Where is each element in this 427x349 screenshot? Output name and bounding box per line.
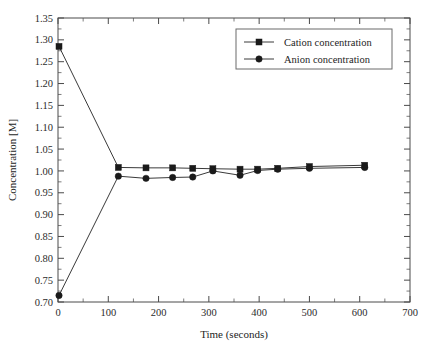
y-tick-label: 1.30 [35, 34, 53, 45]
series-circle [56, 164, 368, 298]
y-tick-label: 1.00 [35, 166, 53, 177]
y-tick-label: 1.15 [35, 100, 53, 111]
y-tick-label: 0.85 [35, 231, 53, 242]
x-tick-label: 600 [352, 307, 368, 318]
x-tick-labels: 0100200300400500600700 [55, 307, 418, 318]
data-point-marker [190, 165, 196, 171]
legend-marker-circle [256, 56, 262, 62]
y-tick-label: 1.25 [35, 56, 53, 67]
data-point-marker [169, 174, 175, 180]
x-tick-label: 500 [302, 307, 318, 318]
y-tick-label: 0.90 [35, 209, 53, 220]
data-series [56, 43, 368, 298]
data-point-marker [143, 165, 149, 171]
x-tick-label: 0 [55, 307, 60, 318]
chart-page: 0100200300400500600700 0.700.750.800.850… [0, 0, 427, 349]
data-point-marker [115, 173, 121, 179]
y-tick-label: 0.70 [35, 297, 53, 308]
x-tick-label: 200 [151, 307, 167, 318]
data-point-marker [237, 172, 243, 178]
data-point-marker [237, 166, 243, 172]
data-point-marker [190, 174, 196, 180]
data-point-marker [275, 166, 281, 172]
x-tick-label: 700 [402, 307, 418, 318]
y-axis-title: Concentration [M] [6, 119, 18, 201]
legend-label: Cation concentration [284, 37, 373, 48]
y-tick-label: 1.10 [35, 122, 53, 133]
y-tick-label: 1.05 [35, 144, 53, 155]
y-tick-label: 1.20 [35, 78, 53, 89]
chart-legend: Cation concentrationAnion concentration [236, 29, 392, 69]
data-point-marker [56, 43, 62, 49]
y-tick-label: 0.95 [35, 187, 53, 198]
x-tick-label: 300 [201, 307, 217, 318]
series-line [59, 167, 365, 295]
legend-label: Anion concentration [284, 54, 371, 65]
concentration-vs-time-chart: 0100200300400500600700 0.700.750.800.850… [0, 0, 427, 349]
x-tick-label: 100 [100, 307, 116, 318]
y-tick-label: 0.75 [35, 275, 53, 286]
data-point-marker [210, 168, 216, 174]
y-tick-label: 1.35 [35, 13, 53, 24]
y-tick-label: 0.80 [35, 253, 53, 264]
data-point-marker [254, 167, 260, 173]
data-point-marker [362, 164, 368, 170]
legend-marker-square [256, 39, 262, 45]
data-point-marker [170, 165, 176, 171]
y-tick-labels: 0.700.750.800.850.900.951.001.051.101.15… [35, 13, 53, 308]
data-point-marker [306, 165, 312, 171]
x-tick-label: 400 [251, 307, 267, 318]
data-point-marker [115, 164, 121, 170]
data-point-marker [143, 175, 149, 181]
x-axis-title: Time (seconds) [200, 328, 268, 341]
data-point-marker [56, 292, 62, 298]
